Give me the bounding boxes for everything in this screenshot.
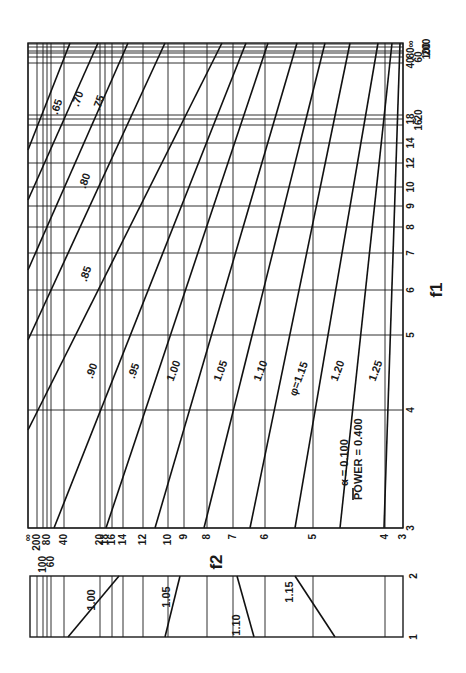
inset-f1-label-2: 2 bbox=[408, 573, 419, 579]
f2-axis-title: f2 bbox=[207, 554, 226, 569]
phi-curve-label: φ=1.15 bbox=[286, 360, 309, 398]
phi-curve bbox=[28, 43, 165, 340]
phi-curve-label: 1.25 bbox=[366, 359, 385, 383]
f1-tick-label: 7 bbox=[405, 250, 416, 256]
legend-alpha: α = 0.100 bbox=[338, 439, 350, 486]
f2-tick-label: 6 bbox=[259, 534, 270, 540]
inset-f1-label-1: 1 bbox=[408, 634, 419, 640]
legend-power: POWER = 0.400 bbox=[352, 418, 364, 500]
f2-tick-label: 60 bbox=[45, 556, 56, 568]
f1-tick-label: 6 bbox=[405, 287, 416, 293]
phi-curve-label: 1.10 bbox=[251, 359, 270, 383]
inset-curve-label: 1.05 bbox=[160, 586, 172, 607]
f1-tick-label: 10 bbox=[405, 181, 416, 193]
inset-curve-label: 1.00 bbox=[85, 589, 97, 610]
phi-curve bbox=[384, 43, 400, 528]
phi-curve bbox=[106, 43, 268, 528]
phi-curve-label: .65 bbox=[48, 97, 65, 115]
f2-tick-label: 5 bbox=[307, 534, 318, 540]
phi-curve-label: .90 bbox=[83, 361, 100, 379]
f2-tick-label: 4 bbox=[379, 534, 390, 540]
phi-curve-labels: .65.70.75.80.85.90.951.001.051.10φ=1.151… bbox=[48, 89, 385, 397]
f2-tick-label: 16 bbox=[106, 534, 117, 546]
inset-curve-label: 1.15 bbox=[283, 581, 295, 602]
f2-tick-label: 14 bbox=[117, 534, 128, 546]
f2-tick-label: 9 bbox=[178, 534, 189, 540]
inset-curve-label: 1.10 bbox=[230, 614, 242, 635]
f1-tick-label: 3 bbox=[405, 525, 416, 531]
f2-tick-label: 80 bbox=[41, 534, 52, 546]
f1-tick-label: 12 bbox=[405, 157, 416, 169]
f1-tick-label: 40 bbox=[405, 57, 416, 69]
phi-curve-label: 1.05 bbox=[211, 359, 230, 383]
f2-tick-label: 7 bbox=[227, 534, 238, 540]
phi-curve-label: .70 bbox=[69, 89, 86, 107]
f2-tick-label: 3 bbox=[397, 534, 408, 540]
f1-tick-label: 14 bbox=[405, 137, 416, 149]
inset-phi-curve bbox=[295, 576, 335, 637]
f1-tick-label: ∞ bbox=[405, 40, 416, 47]
f2-tick-label: 8 bbox=[201, 534, 212, 540]
f2-tick-label: 40 bbox=[58, 534, 69, 546]
phi-curve bbox=[54, 43, 246, 528]
f1-tick-label: 9 bbox=[405, 203, 416, 209]
power-chart: ∞2001008060402018161412109876543 ∞200100… bbox=[0, 0, 466, 673]
phi-curve-label: .85 bbox=[77, 264, 94, 282]
f2-tick-label: 10 bbox=[162, 534, 173, 546]
f1-tick-label: 4 bbox=[405, 407, 416, 413]
f1-tick-label: 8 bbox=[405, 224, 416, 230]
f1-tick-label: 16 bbox=[413, 119, 424, 131]
f1-axis-title: f1 bbox=[427, 282, 446, 297]
f1-tick-label: 5 bbox=[405, 332, 416, 338]
phi-curve-label: .95 bbox=[125, 361, 142, 379]
phi-curve-label: 1.20 bbox=[328, 359, 347, 383]
phi-curve bbox=[155, 43, 297, 528]
phi-curve-label: 1.00 bbox=[164, 359, 183, 383]
f2-tick-label: 12 bbox=[137, 534, 148, 546]
